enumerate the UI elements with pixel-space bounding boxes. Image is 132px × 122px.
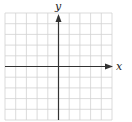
y-axis-label: y	[54, 0, 62, 13]
y-axis-arrow-icon	[56, 14, 62, 22]
x-axis-label: x	[116, 60, 123, 73]
coordinate-plane: x y	[0, 0, 132, 122]
